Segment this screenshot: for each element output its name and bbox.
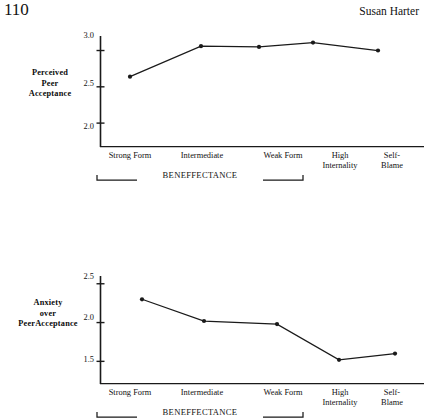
y-tick-label-top-2.0: 2.0 [72,122,94,131]
author-name: Susan Harter [359,2,419,20]
data-point-intermediate [202,319,206,323]
y-tick-label-bottom-1.5: 1.5 [72,355,94,364]
figure-anxiety-over-peer-acceptance: Anxiety over PeerAcceptance 2.5 2.0 1.5 … [0,258,425,420]
x-category-line: Self- [352,151,425,161]
page-number: 110 [4,0,29,20]
data-point-strong-form [128,75,132,79]
data-line-top [130,43,378,77]
data-point-weak-form [257,45,261,49]
x-category-line: Blame [352,398,425,408]
y-axis-label-line: Acceptance [14,89,86,100]
figure-perceived-peer-acceptance: Perceived Peer Acceptance 3.0 2.5 2.0 St… [0,22,425,222]
x-category-line: Blame [352,161,425,171]
x-category-line: Strong Form [90,388,170,398]
x-category-line: Intermediate [162,151,242,161]
x-category-label-strong-form: Strong Form [90,388,170,398]
data-point-intermediate [199,44,203,48]
x-category-label-self-blame: Self- Blame [352,388,425,408]
x-category-line: Self- [352,388,425,398]
y-tick-label-bottom-2.0: 2.0 [72,313,94,322]
data-point-self-blame [376,48,380,52]
group-bracket-caption-bottom: BENEFFECTANCE [140,407,260,417]
x-category-label-intermediate: Intermediate [162,151,242,161]
plot-area-top [0,22,425,222]
x-category-label-strong-form: Strong Form [90,151,170,161]
y-axis-label-line: Perceived [14,68,86,79]
data-line-bottom [142,299,395,360]
data-point-weak-form [275,322,279,326]
data-point-strong-form [140,297,144,301]
x-category-line: Intermediate [162,388,242,398]
data-point-self-blame [393,352,397,356]
y-tick-label-top-3.0: 3.0 [72,31,94,40]
y-axis-label-line: Anxiety [8,298,88,309]
x-category-line: Strong Form [90,151,170,161]
x-category-label-intermediate: Intermediate [162,388,242,398]
data-point-high-internality [311,40,315,44]
data-points-bottom [140,297,397,362]
group-bracket-caption-top: BENEFFECTANCE [140,170,260,180]
y-tick-label-top-2.5: 2.5 [72,79,94,88]
x-category-label-self-blame: Self- Blame [352,151,425,171]
data-point-high-internality [337,358,341,362]
y-tick-label-bottom-2.5: 2.5 [72,272,94,281]
running-head: 110 Susan Harter [0,0,425,22]
